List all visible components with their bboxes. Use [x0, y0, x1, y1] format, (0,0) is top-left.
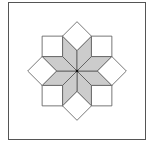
center-point [76, 70, 79, 73]
corner-square [91, 36, 111, 56]
corner-square [91, 85, 111, 105]
corner-square [42, 85, 62, 105]
quilt-block-diagram [8, 2, 147, 141]
corner-square [42, 36, 62, 56]
